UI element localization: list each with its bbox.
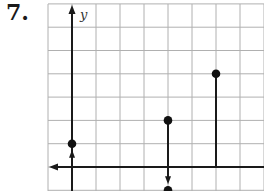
x-axis-arrow-icon (49, 164, 58, 171)
data-point (164, 116, 173, 125)
y-axis-label: y (79, 7, 88, 22)
data-point (164, 186, 173, 191)
data-point (212, 70, 221, 79)
graph: y (0, 0, 264, 191)
y-axis-arrow-icon (69, 5, 76, 14)
arrowhead-icon (69, 150, 75, 158)
arrowhead-icon (165, 176, 171, 184)
axes (49, 5, 264, 191)
data-point (68, 139, 77, 148)
grid-lines (48, 4, 264, 191)
